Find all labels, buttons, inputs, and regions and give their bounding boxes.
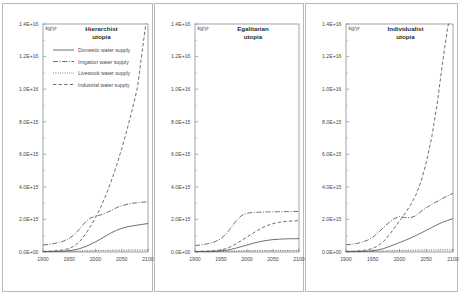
x-tick-label: 1950 xyxy=(215,256,227,262)
y-tick-label: 4.0E+15 xyxy=(322,184,342,190)
y-tick-label: 1.2E+16 xyxy=(171,53,191,59)
series-line-industrial xyxy=(195,221,299,252)
x-tick-label: 2000 xyxy=(90,256,102,262)
y-tick-label: 8.0E+15 xyxy=(19,119,39,125)
y-tick-label: 2.0E+15 xyxy=(322,216,342,222)
y-tick-label: 1.4E+16 xyxy=(171,21,191,27)
x-tick-label: 1950 xyxy=(63,256,75,262)
y-tick-label: 8.0E+15 xyxy=(171,119,191,125)
plot-svg-1: 0.0E+002.0E+154.0E+156.0E+158.0E+151.0E+… xyxy=(3,4,154,293)
x-tick-label: 1900 xyxy=(189,256,201,262)
panel-title-line2: utopia xyxy=(396,33,415,40)
x-tick-label: 1900 xyxy=(340,256,352,262)
legend-label-domestic: Domestic water supply xyxy=(78,47,131,53)
y-tick-label: 4.0E+15 xyxy=(171,184,191,190)
plot-frame xyxy=(346,24,453,252)
x-tick-label: 2000 xyxy=(241,256,253,262)
y-tick-label: 1.2E+16 xyxy=(322,53,342,59)
y-tick-label: 4.0E+15 xyxy=(19,184,39,190)
series-group xyxy=(195,211,299,251)
y-tick-label: 1.0E+16 xyxy=(19,86,39,92)
x-tick-label: 2050 xyxy=(267,256,279,262)
x-tick-label: 2100 xyxy=(447,256,459,262)
figure-water-supply-scenarios: 0.0E+002.0E+154.0E+156.0E+158.0E+151.0E+… xyxy=(0,0,461,300)
series-line-industrial xyxy=(346,8,453,252)
y-tick-label: 6.0E+15 xyxy=(322,151,342,157)
x-tick-label: 1950 xyxy=(367,256,379,262)
plot-frame xyxy=(195,24,299,252)
panel-title-line1: Hierarchist xyxy=(85,25,117,32)
y-tick-label: 1.4E+16 xyxy=(322,21,342,27)
series-line-domestic xyxy=(346,219,453,252)
y-tick-label: 2.0E+15 xyxy=(19,216,39,222)
legend-label-industrial: Industrial water supply xyxy=(78,82,130,88)
series-line-irrigation xyxy=(43,202,148,245)
series-line-industrial xyxy=(43,8,148,252)
x-tick-label: 2050 xyxy=(116,256,128,262)
y-tick-label: 0.0E+00 xyxy=(19,249,39,255)
axis-unit-label: kg/yr xyxy=(349,25,361,31)
series-line-irrigation xyxy=(346,193,453,244)
x-tick-label: 2100 xyxy=(293,256,305,262)
y-tick-label: 1.2E+16 xyxy=(19,53,39,59)
y-tick-label: 1.4E+16 xyxy=(19,21,39,27)
chart-panel-hierarchist: 0.0E+002.0E+154.0E+156.0E+158.0E+151.0E+… xyxy=(2,3,153,292)
y-tick-label: 0.0E+00 xyxy=(322,249,342,255)
y-tick-label: 1.0E+16 xyxy=(322,86,342,92)
y-tick-label: 0.0E+00 xyxy=(171,249,191,255)
chart-panel-individualist: 0.0E+002.0E+154.0E+156.0E+158.0E+151.0E+… xyxy=(305,3,458,292)
legend-label-irrigation: Irrigation water supply xyxy=(78,59,129,65)
plot-svg-3: 0.0E+002.0E+154.0E+156.0E+158.0E+151.0E+… xyxy=(306,4,459,293)
plot-svg-2: 0.0E+002.0E+154.0E+156.0E+158.0E+151.0E+… xyxy=(155,4,305,293)
x-tick-label: 2100 xyxy=(142,256,154,262)
y-tick-label: 2.0E+15 xyxy=(171,216,191,222)
panel-title-line1: Egalitarian xyxy=(237,25,269,32)
panel-title-line1: Individualist xyxy=(387,25,423,32)
y-tick-label: 6.0E+15 xyxy=(171,151,191,157)
series-group xyxy=(346,8,453,252)
chart-panel-egalitarian: 0.0E+002.0E+154.0E+156.0E+158.0E+151.0E+… xyxy=(154,3,304,292)
x-tick-label: 2000 xyxy=(394,256,406,262)
series-line-domestic xyxy=(43,224,148,252)
y-tick-label: 8.0E+15 xyxy=(322,119,342,125)
x-tick-label: 1900 xyxy=(37,256,49,262)
panel-title-line2: utopia xyxy=(244,33,263,40)
y-tick-label: 1.0E+16 xyxy=(171,86,191,92)
axis-unit-label: kg/yr xyxy=(46,25,58,31)
series-line-irrigation xyxy=(195,211,299,245)
y-tick-label: 6.0E+15 xyxy=(19,151,39,157)
legend-label-livestock: Livestock water supply xyxy=(78,70,131,76)
axis-unit-label: kg/yr xyxy=(198,25,210,31)
series-group xyxy=(43,8,148,252)
x-tick-label: 2050 xyxy=(420,256,432,262)
panel-title-line2: utopia xyxy=(92,33,111,40)
